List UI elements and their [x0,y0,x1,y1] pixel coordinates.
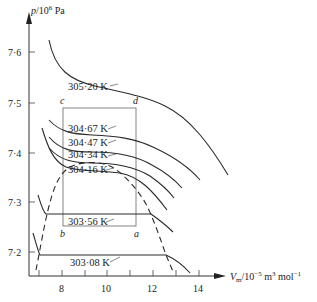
y-tick-label: 7·3 [8,197,21,208]
point-label-a: a [134,228,139,239]
x-axis-title: Vm/10−5 m3 mol−1 [230,270,302,284]
curve-label-305-20K: 305·20 K [68,81,108,92]
y-tick-label: 7·4 [8,148,21,159]
curve-label-304-16K: 304·16 K [68,164,108,175]
y-tick-label: 7·6 [8,47,21,58]
curve-label-304-67K: 304·67 K [68,123,108,134]
x-axis-arrow-icon [214,273,226,279]
y-ticks [29,52,35,252]
curve-label-303-08K: 303·08 K [70,257,110,268]
axes [29,20,218,276]
x-tick-label: 12 [147,283,157,294]
y-axis-title: p/106 Pa [30,4,65,16]
point-label-c: c [60,95,65,106]
curve-label-304-47K: 304·47 K [68,137,108,148]
curve-label-303-56K: 303·56 K [68,216,108,227]
y-tick-label: 7·2 [8,247,21,258]
x-tick-label: 10 [101,283,111,294]
isotherm-303-08K [33,233,190,273]
y-tick-label: 7·5 [8,98,21,109]
curve-label-304-34K: 304·34 K [68,149,108,160]
point-label-b: b [60,228,65,239]
x-tick-label: 8 [59,283,64,294]
x-ticks [39,270,199,276]
x-tick-label: 14 [193,283,203,294]
pv-isotherm-chart: 7·6 7·5 7·4 7·3 7·2 8 10 12 14 p/106 Pa … [0,0,317,302]
